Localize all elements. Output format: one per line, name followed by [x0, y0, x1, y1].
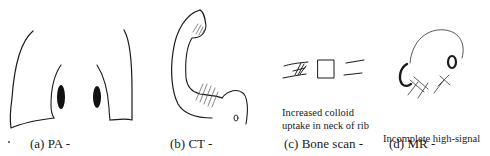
panel-c-drawing: [283, 60, 364, 78]
spinal-canal-mark: [234, 115, 238, 121]
panel-d-caption: (d) MR -: [389, 137, 435, 150]
vertebral-body-outline: [222, 91, 247, 124]
rib-inner-outline: [186, 10, 222, 98]
panel-c-annotation: Increased colloid uptake in neck of rib: [282, 106, 369, 132]
right-lung-outline: [110, 30, 132, 120]
rib-segment-box: [318, 60, 334, 78]
panel-b-caption: (b) CT -: [170, 137, 212, 150]
panel-c-annotation-line: uptake in neck of rib: [282, 119, 369, 132]
panel-d-drawing: [400, 30, 463, 98]
left-hilar-opacity: [57, 85, 65, 109]
left-high-signal-mark: [400, 64, 411, 86]
panel-c-caption: (c) Bone scan -: [284, 137, 363, 150]
left-lung-outline: [10, 31, 54, 128]
rib-segment-right: [344, 60, 364, 75]
hot-spot-hatching: [293, 63, 306, 75]
right-hilar-opacity: [93, 86, 101, 108]
panel-b-drawing: [172, 10, 248, 124]
mass-markers: [408, 75, 450, 98]
panel-c-annotation-line: Increased colloid: [282, 106, 369, 119]
stray-mark: [8, 141, 10, 143]
right-high-signal-ring: [448, 56, 456, 68]
panel-a-caption: (a) PA -: [30, 137, 70, 150]
rib-neck-hatching: [196, 84, 218, 107]
panel-a-drawing: [10, 30, 132, 128]
